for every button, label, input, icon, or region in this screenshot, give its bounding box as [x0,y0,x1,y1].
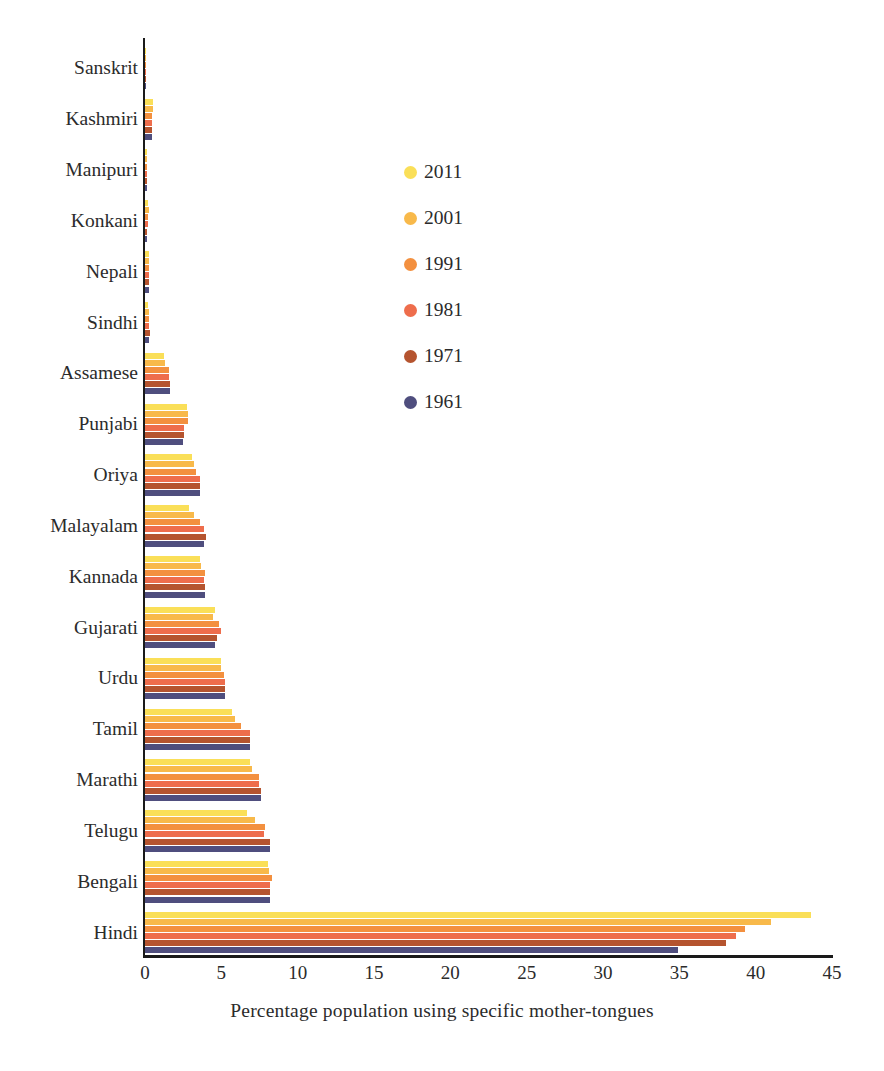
bar [145,788,261,794]
legend-label: 1961 [424,392,463,412]
bar [145,411,188,417]
bar [145,658,221,664]
bar [145,868,269,874]
bar [145,69,146,75]
bar-group [145,454,832,496]
bar [145,882,270,888]
bar-group [145,505,832,547]
bar [145,367,169,373]
bar [145,418,188,424]
bar [145,454,192,460]
bar [145,337,149,343]
bar [145,178,147,184]
bar [145,912,811,918]
x-axis-title: Percentage population using specific mot… [0,1000,884,1022]
bar [145,570,205,576]
bar [145,483,200,489]
bar [145,207,149,213]
category-label: Telugu [0,821,138,841]
category-label: Oriya [0,465,138,485]
bar [145,716,235,722]
bar-chart: SanskritKashmiriManipuriKonkaniNepaliSin… [0,0,884,1071]
x-tick-label: 35 [670,963,689,982]
legend-label: 1971 [424,346,463,366]
bar [145,607,215,613]
legend-item-2011[interactable]: 2011 [404,162,463,208]
bar [145,947,678,953]
bar [145,933,736,939]
bar [145,795,261,801]
bar [145,156,147,162]
bar [145,824,265,830]
bar-group [145,302,832,344]
plot-area [145,40,832,955]
bar [145,265,149,271]
bar [145,875,272,881]
bar [145,106,153,112]
bar [145,846,270,852]
bar [145,316,149,322]
legend-label: 1991 [424,254,463,274]
bar [145,113,152,119]
bar [145,665,221,671]
bar [145,258,149,264]
legend-swatch-icon [404,396,417,409]
bar [145,592,205,598]
bar-group [145,353,832,395]
legend-swatch-icon [404,304,417,317]
legend-item-2001[interactable]: 2001 [404,208,463,254]
legend-swatch-icon [404,350,417,363]
bar [145,323,149,329]
bar [145,99,153,105]
bar [145,381,170,387]
bar [145,810,247,816]
bar-group [145,607,832,649]
bar [145,360,165,366]
bar [145,461,194,467]
legend-item-1991[interactable]: 1991 [404,254,463,300]
bar [145,686,225,692]
bar [145,563,201,569]
bar [145,737,250,743]
chart-legend: 201120011991198119711961 [404,162,463,438]
bar [145,149,147,155]
bar-group [145,200,832,242]
bar-group [145,810,832,852]
bar [145,200,148,206]
bar [145,709,232,715]
bar [145,628,221,634]
bar [145,940,726,946]
bar [145,353,164,359]
legend-label: 2011 [424,162,462,182]
bar [145,62,146,68]
bar [145,534,206,540]
bar [145,774,259,780]
category-label: Kannada [0,567,138,587]
legend-item-1961[interactable]: 1961 [404,392,463,438]
bar [145,83,146,89]
bar [145,229,147,235]
legend-item-1971[interactable]: 1971 [404,346,463,392]
x-tick-label: 25 [517,963,536,982]
x-axis-line [143,955,833,958]
legend-item-1981[interactable]: 1981 [404,300,463,346]
category-label: Assamese [0,363,138,383]
category-label: Bengali [0,872,138,892]
bar [145,279,149,285]
bar [145,221,148,227]
category-label: Marathi [0,770,138,790]
legend-swatch-icon [404,212,417,225]
category-label: Malayalam [0,516,138,536]
x-tick-label: 5 [217,963,227,982]
bar [145,919,771,925]
bar [145,679,225,685]
category-label: Nepali [0,262,138,282]
bar [145,287,149,293]
bar [145,817,255,823]
bar [145,526,204,532]
category-label: Manipuri [0,160,138,180]
bar [145,214,148,220]
bar [145,556,200,562]
bar [145,374,169,380]
legend-label: 1981 [424,300,463,320]
